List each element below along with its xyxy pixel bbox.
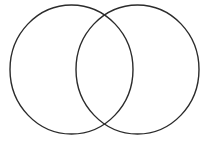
- venn-diagram-canvas: [0, 0, 209, 141]
- venn-diagram-svg: [0, 0, 209, 141]
